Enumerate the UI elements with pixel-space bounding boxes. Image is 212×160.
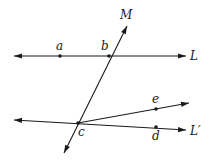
line-L bbox=[14, 53, 186, 58]
arrowhead-icon bbox=[14, 53, 22, 58]
line-L-prime bbox=[14, 118, 186, 132]
point-a bbox=[58, 54, 62, 58]
point-e bbox=[154, 107, 158, 111]
geometry-diagram: LML′abcde bbox=[0, 0, 212, 160]
line-M bbox=[64, 26, 127, 153]
point-label-a: a bbox=[56, 39, 63, 53]
line-L-prime-segment bbox=[14, 120, 186, 130]
line-label-L: L bbox=[189, 49, 198, 63]
arrowhead-icon bbox=[178, 53, 186, 58]
arrowhead-icon bbox=[121, 26, 127, 34]
point-label-d: d bbox=[152, 129, 160, 143]
arrowhead-icon bbox=[64, 145, 70, 153]
arrowhead-icon bbox=[14, 118, 22, 123]
line-ray-ce bbox=[78, 102, 189, 123]
point-label-e: e bbox=[152, 92, 159, 106]
line-label-L-prime: L′ bbox=[189, 124, 201, 138]
point-b bbox=[107, 54, 111, 58]
point-label-b: b bbox=[101, 39, 109, 53]
line-M-segment bbox=[64, 26, 127, 153]
point-label-c: c bbox=[78, 125, 85, 139]
line-label-M: M bbox=[119, 8, 133, 22]
arrowhead-icon bbox=[178, 127, 186, 132]
arrowhead-icon bbox=[181, 102, 189, 107]
line-ray-ce-segment bbox=[78, 103, 189, 123]
